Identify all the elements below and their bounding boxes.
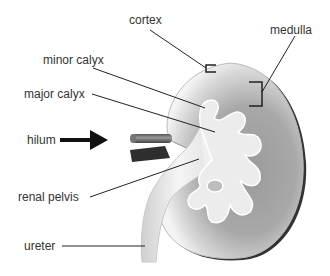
- medulla-leader: [262, 36, 295, 92]
- label-renal-pelvis: renal pelvis: [18, 190, 79, 204]
- hilum-vessels: [130, 134, 172, 162]
- hilum-arrow-icon: [60, 130, 108, 150]
- label-hilum: hilum: [27, 133, 56, 147]
- label-medulla: medulla: [270, 23, 312, 37]
- label-minor-calyx: minor calyx: [43, 53, 104, 67]
- cortex-leader: [150, 30, 206, 68]
- label-cortex: cortex: [129, 13, 162, 27]
- label-ureter: ureter: [24, 239, 55, 253]
- label-major-calyx: major calyx: [24, 87, 85, 101]
- kidney-diagram: cortex medulla minor calyx major calyx h…: [0, 0, 330, 276]
